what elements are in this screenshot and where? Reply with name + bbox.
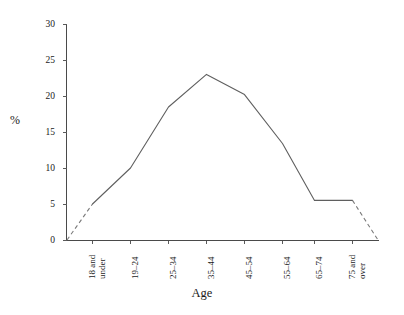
y-tick-label-30: 30 [33,20,55,30]
y-axis-title: % [10,114,20,126]
line-chart-plot [0,0,404,315]
x-tick-label-25-34: 25–34 [169,257,179,280]
y-tick-label-15: 15 [33,128,55,138]
y-tick-label-20: 20 [33,92,55,102]
series-dashed-right-tail [353,200,379,240]
x-axis-title: Age [0,287,404,300]
x-tick-label-55-64: 55–64 [283,257,293,280]
chart-container: 30 25 20 15 10 5 0 18 and under 19–24 25… [0,0,404,315]
x-tick-label-18-and-under: 18 and under [88,255,107,279]
series-line-main [93,74,353,204]
y-tick-label-10: 10 [33,164,55,174]
x-tick-label-45-54: 45–54 [245,257,255,280]
x-tick-label-19-24: 19–24 [131,257,141,280]
y-tick-label-0: 0 [33,236,55,246]
y-tick-label-5: 5 [33,200,55,210]
x-tick-label-65-74: 65–74 [315,257,325,280]
y-tick-label-25: 25 [33,56,55,66]
x-tick-label-75-and-over: 75 and over [348,255,367,279]
series-dashed-left-tail [67,204,93,240]
x-tick-label-35-44: 35–44 [207,257,217,280]
